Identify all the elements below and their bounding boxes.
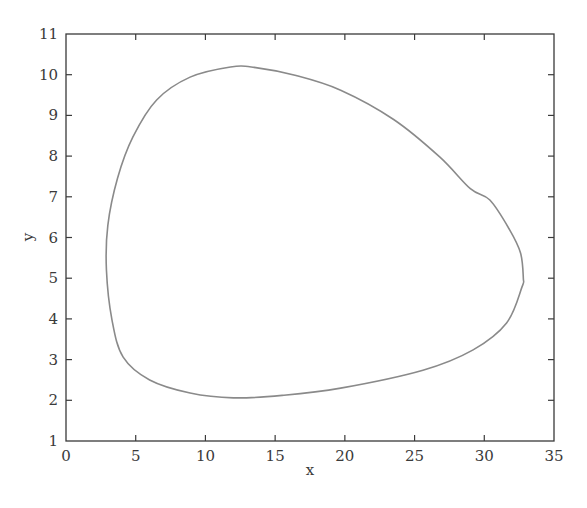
x-axis-label: x <box>306 461 315 479</box>
y-tick-label: 1 <box>48 432 58 450</box>
y-axis-label: y <box>19 232 37 242</box>
y-tick-label: 10 <box>39 66 58 84</box>
x-tick-label: 30 <box>475 447 494 465</box>
x-tick-label: 15 <box>266 447 285 465</box>
y-tick-label: 5 <box>48 269 58 287</box>
x-tick-label: 20 <box>335 447 354 465</box>
x-axis-ticks <box>136 34 485 441</box>
x-tick-label: 5 <box>131 447 141 465</box>
plot-frame <box>66 34 554 441</box>
limit-cycle-curve <box>106 66 524 398</box>
axes-box <box>66 34 554 441</box>
y-tick-label: 8 <box>48 147 58 165</box>
y-tick-label: 11 <box>39 25 58 43</box>
y-tick-label: 6 <box>48 229 58 247</box>
chart-figure: 05101520253035 1234567891011 x y <box>0 0 587 508</box>
y-axis-tick-labels: 1234567891011 <box>39 25 58 450</box>
y-tick-label: 2 <box>48 391 58 409</box>
x-tick-label: 35 <box>544 447 563 465</box>
y-tick-label: 4 <box>48 310 58 328</box>
y-tick-label: 3 <box>48 351 58 369</box>
y-tick-label: 7 <box>48 188 58 206</box>
y-tick-label: 9 <box>48 106 58 124</box>
x-tick-label: 0 <box>61 447 71 465</box>
x-tick-label: 25 <box>405 447 424 465</box>
x-tick-label: 10 <box>196 447 215 465</box>
